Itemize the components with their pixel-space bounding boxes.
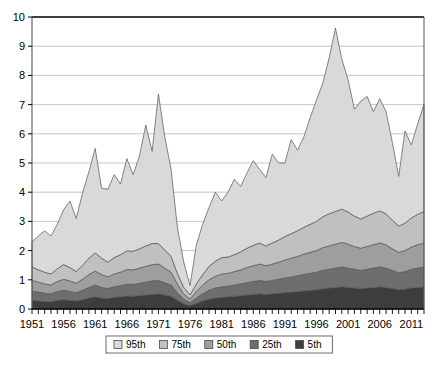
- legend-item-50th[interactable]: 50th: [205, 339, 236, 350]
- y-tick-label: 8: [19, 69, 25, 81]
- legend-label-25th: 25th: [262, 339, 281, 350]
- x-tick-label: 1986: [241, 318, 265, 330]
- y-tick-label: 4: [19, 186, 25, 198]
- y-tick-label: 5: [19, 157, 25, 169]
- y-tick-label: 3: [19, 215, 25, 227]
- x-tick-label: 1971: [146, 318, 170, 330]
- legend-label-50th: 50th: [217, 339, 236, 350]
- x-tick-label: 1981: [209, 318, 233, 330]
- y-tick-label: 6: [19, 128, 25, 140]
- y-tick-label: 10: [13, 11, 25, 23]
- x-tick-label: 1991: [273, 318, 297, 330]
- legend-label-95th: 95th: [126, 339, 145, 350]
- x-tick-label: 2011: [400, 318, 424, 330]
- legend-label-5th: 5th: [308, 339, 322, 350]
- x-tick-label: 1956: [51, 318, 75, 330]
- x-tick-label: 1966: [115, 318, 139, 330]
- y-tick-label: 7: [19, 99, 25, 111]
- chart-canvas: 0123456789101951195619611966197119761981…: [0, 0, 438, 369]
- legend-swatch-75th: [159, 341, 167, 349]
- legend-swatch-25th: [250, 341, 258, 349]
- x-tick-label: 1976: [178, 318, 202, 330]
- x-tick-label: 2001: [336, 318, 360, 330]
- legend-swatch-95th: [114, 341, 122, 349]
- y-tick-label: 9: [19, 40, 25, 52]
- legend-item-75th[interactable]: 75th: [159, 339, 190, 350]
- legend-item-5th[interactable]: 5th: [296, 339, 322, 350]
- x-tick-label: 1996: [304, 318, 328, 330]
- y-tick-label: 1: [19, 274, 25, 286]
- x-tick-label: 1951: [20, 318, 44, 330]
- y-tick-label: 0: [19, 303, 25, 315]
- legend-swatch-5th: [296, 341, 304, 349]
- legend-item-25th[interactable]: 25th: [250, 339, 281, 350]
- stacked-area-chart: 0123456789101951195619611966197119761981…: [0, 0, 438, 369]
- legend-swatch-50th: [205, 341, 213, 349]
- legend-item-95th[interactable]: 95th: [114, 339, 145, 350]
- x-tick-label: 2006: [367, 318, 391, 330]
- legend-label-75th: 75th: [171, 339, 190, 350]
- x-tick-label: 1961: [83, 318, 107, 330]
- y-tick-label: 2: [19, 245, 25, 257]
